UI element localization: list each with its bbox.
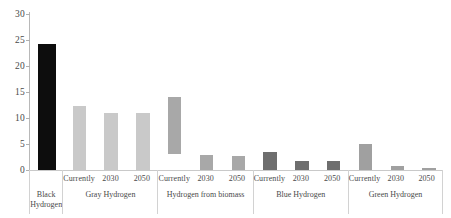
x-sub-label-row: Currently20302050 <box>349 170 442 186</box>
x-sub-label: 2050 <box>221 174 252 183</box>
x-sub-label: Currently <box>63 174 95 183</box>
y-tick-label: 5 <box>20 139 25 149</box>
x-group-gray-hydrogen: Currently20302050Gray Hydrogen <box>62 170 157 214</box>
hydrogen-cost-bar-chart: 051015202530 BlackHydrogenCurrently20302… <box>0 0 451 218</box>
bar-gray-hydrogen-2030 <box>104 113 117 170</box>
y-tick-mark <box>26 144 30 145</box>
x-sub-label-row: Currently20302050 <box>254 170 348 186</box>
bar-blue-hydrogen-currently <box>263 152 276 170</box>
x-sub-label: 2030 <box>285 174 316 183</box>
bar-hydrogen-from-biomass-currently <box>168 97 181 154</box>
x-group-label: Hydrogen from biomass <box>158 186 252 214</box>
bar-gray-hydrogen-2050 <box>136 113 149 170</box>
plot-area: 051015202530 <box>30 14 445 170</box>
x-group-label: Gray Hydrogen <box>63 186 157 214</box>
bar-hydrogen-from-biomass-2050 <box>232 156 245 170</box>
x-group-green-hydrogen: Currently20302050Green Hydrogen <box>348 170 443 214</box>
x-group-label: Green Hydrogen <box>349 186 442 214</box>
y-tick-label: 30 <box>15 9 25 19</box>
x-sub-label: 2050 <box>126 174 157 183</box>
x-sub-label: Currently <box>158 174 190 183</box>
x-group-label-text: Blue Hydrogen <box>276 190 325 200</box>
bar-blue-hydrogen-2050 <box>327 161 340 170</box>
y-tick-label: 10 <box>15 113 25 123</box>
x-sub-label-row: Currently20302050 <box>158 170 252 186</box>
x-sub-label: Currently <box>254 174 286 183</box>
y-tick-label: 15 <box>15 87 25 97</box>
x-sub-label: Currently <box>349 174 381 183</box>
x-group-label-text: Gray Hydrogen <box>85 190 135 200</box>
x-sub-label: 2050 <box>317 174 348 183</box>
y-tick-mark <box>26 118 30 119</box>
x-axis-label-table: BlackHydrogenCurrently20302050Gray Hydro… <box>29 170 443 214</box>
x-group-black-hydrogen: BlackHydrogen <box>29 170 62 214</box>
x-sub-label: 2050 <box>411 174 442 183</box>
y-tick-label: 20 <box>15 61 25 71</box>
x-group-label: Blue Hydrogen <box>254 186 348 214</box>
bar-green-hydrogen-currently <box>359 144 372 170</box>
x-sub-label: 2030 <box>380 174 411 183</box>
bar-gray-hydrogen-currently <box>73 106 86 170</box>
x-group-label: BlackHydrogen <box>30 186 62 214</box>
x-sub-label: 2030 <box>190 174 221 183</box>
x-sub-label: 2030 <box>95 174 126 183</box>
y-tick-label: 25 <box>15 35 25 45</box>
bar-hydrogen-from-biomass-2030 <box>200 155 213 170</box>
x-group-label-text: Hydrogen from biomass <box>167 190 245 200</box>
x-group-label-text: Green Hydrogen <box>369 190 423 200</box>
bar-black-hydrogen <box>38 44 56 170</box>
y-tick-mark <box>26 66 30 67</box>
bar-blue-hydrogen-2030 <box>295 161 308 170</box>
y-tick-label: 0 <box>20 165 25 175</box>
x-sub-label-row <box>30 170 62 186</box>
y-tick-mark <box>26 92 30 93</box>
y-tick-mark <box>26 14 30 15</box>
x-group-blue-hydrogen: Currently20302050Blue Hydrogen <box>253 170 348 214</box>
x-group-label-text: BlackHydrogen <box>30 190 62 210</box>
x-sub-label-row: Currently20302050 <box>63 170 157 186</box>
y-tick-mark <box>26 40 30 41</box>
x-group-hydrogen-from-biomass: Currently20302050Hydrogen from biomass <box>157 170 252 214</box>
